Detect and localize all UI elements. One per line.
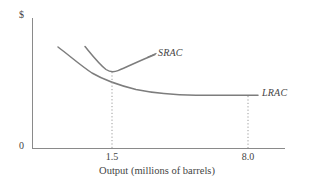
srac-curve-label: SRAC xyxy=(158,48,183,58)
cost-curve-figure: $ 0 1.5 8.0 Output (millions of barrels)… xyxy=(0,0,309,187)
x-tick-label-1-5: 1.5 xyxy=(106,152,119,162)
y-axis-label: $ xyxy=(19,10,24,20)
origin-label: 0 xyxy=(19,141,24,151)
x-axis-title: Output (millions of barrels) xyxy=(99,166,215,177)
lrac-curve-label: LRAC xyxy=(262,88,287,98)
x-tick-label-8-0: 8.0 xyxy=(242,152,255,162)
srac-curve xyxy=(85,47,155,72)
